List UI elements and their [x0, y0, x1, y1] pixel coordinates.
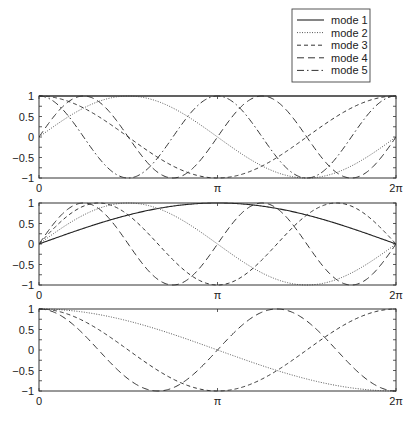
curve-mode-2 — [39, 203, 396, 285]
y-tick-label: 0.5 — [19, 111, 34, 123]
y-tick-label: −0.5 — [12, 365, 34, 377]
y-tick-label: −1 — [21, 172, 34, 184]
curves — [39, 309, 396, 391]
y-tick-label: 1 — [28, 303, 34, 315]
x-tick-label: 0 — [36, 182, 42, 194]
plot-panel-2: 10.50−0.5−10π2π — [12, 197, 403, 301]
plot-panel-1: 10.50−0.5−10π2π — [12, 90, 403, 194]
curve-mode-5 — [39, 96, 396, 178]
y-tick-label: 1 — [28, 197, 34, 209]
curve-mode-4 — [39, 309, 396, 391]
y-tick-label: 0 — [28, 344, 34, 356]
curves — [39, 96, 396, 178]
legend-label: mode 4 — [331, 52, 368, 64]
legend-label: mode 5 — [331, 64, 368, 76]
y-tick-label: 0 — [28, 238, 34, 250]
curve-mode-3 — [39, 96, 396, 178]
x-tick-label: 2π — [389, 289, 403, 301]
axes-frame — [39, 96, 396, 178]
x-tick-label: 2π — [389, 182, 403, 194]
axes-frame — [39, 203, 396, 285]
x-tick-label: 2π — [389, 395, 403, 407]
mode-shapes-figure: 10.50−0.5−10π2π10.50−0.5−10π2π10.50−0.5−… — [0, 0, 414, 422]
plot-panel-3: 10.50−0.5−10π2π — [12, 303, 403, 407]
y-tick-label: 1 — [28, 90, 34, 102]
x-tick-label: π — [214, 182, 222, 194]
curves — [39, 203, 396, 285]
legend-label: mode 3 — [331, 39, 368, 51]
y-tick-label: −1 — [21, 385, 34, 397]
curve-mode-2 — [39, 96, 396, 178]
y-tick-label: −1 — [21, 279, 34, 291]
y-tick-label: −0.5 — [12, 152, 34, 164]
x-tick-label: π — [214, 395, 222, 407]
legend: mode 1mode 2mode 3mode 4mode 5 — [292, 9, 370, 82]
legend-label: mode 2 — [331, 27, 368, 39]
legend-label: mode 1 — [331, 14, 368, 26]
plot-panels: 10.50−0.5−10π2π10.50−0.5−10π2π10.50−0.5−… — [12, 90, 403, 407]
y-tick-label: 0.5 — [19, 324, 34, 336]
y-tick-label: 0 — [28, 131, 34, 143]
x-tick-label: π — [214, 289, 222, 301]
y-tick-label: −0.5 — [12, 259, 34, 271]
curve-mode-4 — [39, 96, 396, 178]
x-tick-label: 0 — [36, 289, 42, 301]
curve-mode-4 — [39, 203, 396, 285]
curve-mode-3 — [39, 203, 396, 285]
x-tick-label: 0 — [36, 395, 42, 407]
curve-mode-1 — [39, 203, 396, 244]
y-tick-label: 0.5 — [19, 218, 34, 230]
